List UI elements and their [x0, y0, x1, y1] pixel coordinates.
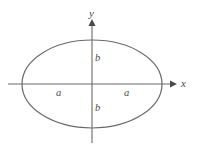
semi-minor-axis-label-lower: b — [95, 103, 100, 114]
semi-major-axis-label-left: a — [56, 88, 61, 99]
y-axis-arrowhead-icon — [88, 19, 95, 26]
y-axis-label: y — [89, 8, 94, 19]
semi-major-axis-label-right: a — [124, 88, 129, 99]
x-axis-label: x — [181, 78, 186, 89]
ellipse-figure: y x b b a a — [0, 0, 198, 150]
semi-minor-axis-label-upper: b — [95, 53, 100, 64]
y-axis — [88, 19, 95, 143]
ellipse-diagram-canvas — [0, 0, 198, 150]
x-axis-arrowhead-icon — [170, 80, 177, 87]
